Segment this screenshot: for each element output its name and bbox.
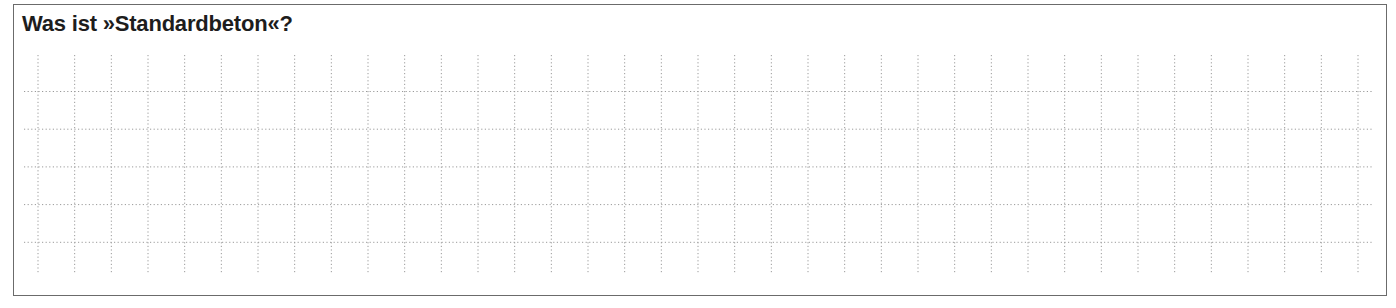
- answer-grid[interactable]: [0, 0, 1396, 308]
